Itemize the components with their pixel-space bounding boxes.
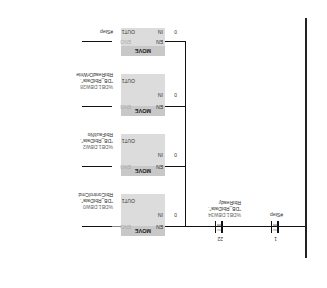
main-wire (185, 226, 305, 227)
contact-address: %DB1.DBW34 (208, 212, 241, 218)
contact-operand-top: 22 (217, 236, 223, 242)
contact-tag: RbtReady (219, 200, 241, 206)
contact-db: "DB_RbtData". (208, 206, 241, 212)
compare-contact-step[interactable]: == Int (271, 221, 279, 233)
contact-operand-top: 1 (274, 236, 277, 242)
left-power-rail (305, 18, 307, 258)
ladder-network: == Int 1 #Step == Int 22 %DB1.DBW34 "DB_… (0, 0, 327, 288)
contact-operand: #Step (270, 212, 283, 218)
compare-contact-rbtready[interactable]: == Int (215, 221, 223, 233)
branch-bus (185, 41, 186, 227)
